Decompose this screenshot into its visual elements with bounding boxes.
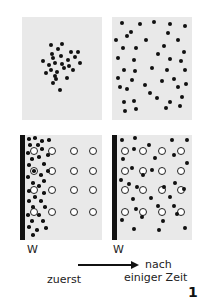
particle-dot — [67, 64, 71, 68]
particle-dot — [176, 38, 181, 43]
open-circle — [121, 147, 129, 155]
open-circle — [48, 208, 56, 216]
particle-dot — [47, 138, 51, 142]
particle-dot — [27, 225, 31, 229]
particle-dot — [46, 153, 50, 157]
particle-dot — [180, 95, 185, 100]
wall-label-left: W — [27, 244, 38, 255]
panel-wall-later — [112, 135, 192, 240]
particle-dot — [172, 77, 177, 82]
particle-dot — [185, 138, 189, 142]
open-circle — [89, 186, 97, 194]
particle-dot — [160, 79, 165, 84]
particle-dot — [78, 61, 82, 65]
particle-dot — [148, 91, 153, 96]
particle-dot — [122, 100, 127, 105]
particle-dot — [143, 83, 148, 88]
particle-dot — [26, 213, 30, 217]
particle-dot — [39, 173, 43, 177]
particle-dot — [168, 57, 173, 62]
open-circle — [139, 186, 147, 194]
particle-dot — [49, 43, 53, 47]
particle-dot — [178, 104, 183, 109]
particle-dot — [53, 61, 57, 65]
open-circle — [177, 167, 185, 175]
particle-dot — [162, 185, 166, 189]
particle-dot — [49, 68, 53, 72]
particle-dot — [47, 63, 51, 67]
particle-dot — [182, 187, 186, 191]
particle-dot — [27, 163, 31, 167]
particle-dot — [30, 157, 34, 161]
particle-dot — [138, 22, 143, 27]
particle-dot — [71, 68, 75, 72]
particle-dot — [37, 155, 41, 159]
particle-dot — [114, 38, 119, 43]
particle-dot — [147, 143, 151, 147]
open-circle — [70, 186, 78, 194]
particle-dot — [40, 139, 44, 143]
arrow-head-icon — [131, 261, 139, 269]
particle-dot — [129, 30, 134, 35]
particle-dot — [51, 81, 55, 85]
particle-dot — [134, 107, 139, 112]
particle-dot — [130, 78, 135, 83]
particle-dot — [116, 56, 121, 61]
particle-dot — [66, 58, 70, 62]
particle-dot — [116, 76, 121, 81]
particle-dot — [134, 207, 138, 211]
open-circle — [121, 208, 129, 216]
particle-dot — [168, 22, 173, 27]
wall-bar — [20, 135, 25, 240]
particle-dot — [183, 68, 188, 73]
particle-dot — [150, 66, 155, 71]
particle-dot — [46, 169, 50, 173]
particle-dot — [30, 219, 34, 223]
particle-dot — [33, 136, 37, 140]
particle-dot — [41, 59, 45, 63]
open-circle — [121, 167, 129, 175]
time-arrow — [78, 264, 132, 266]
particle-dot — [184, 82, 189, 87]
particle-dot — [183, 226, 187, 230]
particle-dot — [183, 24, 188, 29]
open-circle — [158, 147, 166, 155]
particle-dot — [144, 38, 149, 43]
open-circle — [158, 167, 166, 175]
particle-dot — [141, 173, 145, 177]
panel-clustered — [22, 17, 102, 120]
particle-dot — [155, 96, 160, 101]
open-circle — [89, 147, 97, 155]
wall-bar — [112, 135, 117, 240]
particle-dot — [132, 58, 137, 63]
open-circle — [30, 147, 38, 155]
particle-dot — [37, 184, 41, 188]
particle-dot — [123, 109, 128, 114]
particle-dot — [27, 189, 31, 193]
particle-dot — [26, 151, 30, 155]
label-after-1: nach — [145, 259, 172, 270]
particle-dot — [39, 199, 43, 203]
particle-dot — [40, 147, 44, 151]
particle-dot — [44, 71, 48, 75]
open-circle — [89, 167, 97, 175]
particle-dot — [73, 55, 77, 59]
particle-dot — [134, 46, 139, 51]
particle-dot — [153, 156, 157, 160]
particle-dot — [118, 85, 123, 90]
open-circle — [121, 186, 129, 194]
particle-dot — [56, 47, 60, 51]
label-before: zuerst — [47, 274, 81, 285]
particle-dot — [121, 157, 125, 161]
particle-dot — [170, 138, 174, 142]
particle-dot — [120, 138, 124, 142]
particle-dot — [26, 175, 30, 179]
particle-dot — [133, 69, 138, 74]
open-circle — [139, 147, 147, 155]
open-circle — [48, 186, 56, 194]
particle-dot — [168, 195, 172, 199]
particle-dot — [130, 166, 134, 170]
particle-dot — [152, 20, 157, 25]
particle-dot — [150, 168, 154, 172]
open-circle — [70, 147, 78, 155]
